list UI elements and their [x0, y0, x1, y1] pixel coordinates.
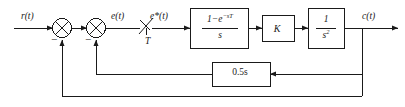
zoh-numerator: 1−e−sT — [196, 15, 244, 25]
sampler-contact-mark — [140, 20, 150, 30]
plant-denominator-exponent: 2 — [326, 28, 329, 35]
inner-feedback-label: 0.5s — [215, 68, 265, 78]
zoh-numerator-base: 1−e — [207, 14, 222, 24]
label-output-ct: c(t) — [362, 12, 375, 22]
zoh-denominator: s — [196, 31, 244, 41]
gain-label: K — [264, 24, 290, 34]
plant-denominator: s2 — [312, 31, 340, 41]
zoh-numerator-exponent: −sT — [222, 12, 232, 19]
plant-numerator: 1 — [312, 15, 340, 25]
sum-sign-outer: − — [51, 33, 57, 45]
label-sampling-period: T — [145, 37, 150, 47]
label-input-rt: r(t) — [21, 12, 34, 22]
zoh-fraction-bar — [202, 28, 238, 29]
block-diagram-figure: r(t) e(t) e*(t) T c(t) − − 1−e−sT s K 1 … — [0, 0, 405, 107]
sum-sign-inner: − — [85, 33, 91, 45]
label-sampled-error: e*(t) — [150, 12, 168, 22]
label-error-et: e(t) — [111, 12, 124, 22]
